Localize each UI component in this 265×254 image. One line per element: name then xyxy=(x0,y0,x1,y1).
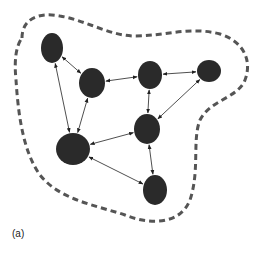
edge-n3-n5 xyxy=(148,90,149,113)
node-n6 xyxy=(56,133,90,165)
node-n4 xyxy=(197,60,221,82)
network-diagram xyxy=(0,0,265,254)
edge-group xyxy=(55,57,200,184)
node-n7 xyxy=(143,175,167,205)
edge-n2-n6 xyxy=(78,98,88,132)
edge-n3-n4 xyxy=(163,72,196,74)
edge-n2-n3 xyxy=(106,77,137,81)
node-n2 xyxy=(79,68,105,98)
edge-n1-n6 xyxy=(55,63,69,132)
edge-n5-n7 xyxy=(149,145,153,174)
edge-n1-n2 xyxy=(62,57,81,74)
edge-n6-n7 xyxy=(89,157,143,184)
figure-caption: (a) xyxy=(12,228,24,239)
node-n3 xyxy=(138,61,162,89)
node-n5 xyxy=(134,114,160,144)
edge-n4-n5 xyxy=(158,80,200,119)
node-n1 xyxy=(41,33,63,63)
edge-n5-n6 xyxy=(90,133,133,145)
